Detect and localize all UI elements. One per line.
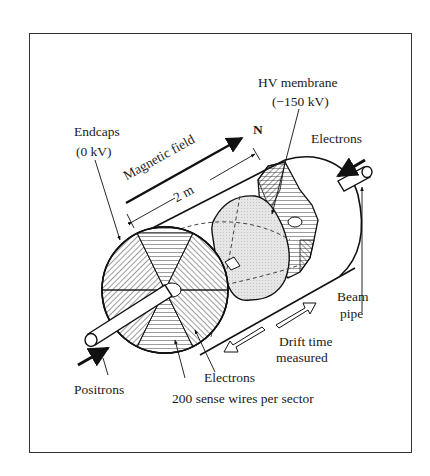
beam-pipe-label-line2: pipe (340, 306, 363, 321)
drift-label-line2: measured (276, 350, 328, 365)
north-label: N (253, 122, 263, 137)
hv-voltage-label: (−150 kV) (272, 94, 329, 109)
hv-membrane-label: HV membrane (258, 75, 338, 90)
electrons-bottom-label: Electrons (204, 370, 255, 385)
positrons-label: Positrons (74, 382, 124, 397)
drift-label-line1: Drift time (279, 334, 333, 349)
sense-wires-label: 200 sense wires per sector (172, 391, 314, 406)
electrons-top-label: Electrons (311, 131, 362, 146)
endcaps-voltage-label: (0 kV) (76, 144, 112, 159)
positrons-arrow (78, 348, 108, 365)
beam-pipe-label-line1: Beam (337, 289, 369, 304)
endcaps-label: Endcaps (74, 124, 120, 139)
